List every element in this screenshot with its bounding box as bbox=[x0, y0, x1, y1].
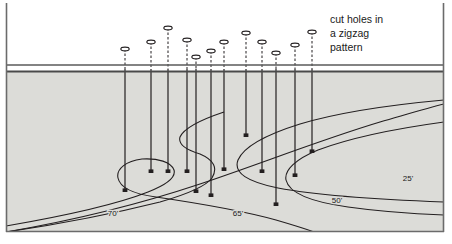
annotation-line-2: a zigzag bbox=[330, 27, 369, 39]
drill-hole-1-bottom-marker bbox=[123, 188, 128, 192]
annotation-line-1: cut holes in bbox=[330, 13, 383, 25]
contour-label-65: 65' bbox=[233, 209, 244, 218]
drill-hole-1-collar-icon bbox=[121, 47, 129, 51]
drill-hole-6-bottom-marker bbox=[209, 193, 214, 197]
diagram-canvas: 70' 65' 50' 25' cut holes in a zigzag pa… bbox=[0, 0, 452, 244]
drill-hole-3-bottom-marker bbox=[166, 169, 171, 173]
drill-hole-12-bottom-marker bbox=[310, 149, 315, 153]
drill-hole-11-collar-icon bbox=[291, 43, 299, 47]
drill-hole-2-collar-icon bbox=[147, 40, 155, 44]
drill-hole-7-bottom-marker bbox=[222, 167, 227, 171]
drill-hole-9-collar-icon bbox=[258, 40, 266, 44]
drill-hole-10-collar-icon bbox=[272, 51, 280, 55]
drill-hole-3-collar-icon bbox=[164, 26, 172, 30]
drill-hole-cross-section-figure: 70' 65' 50' 25' cut holes in a zigzag pa… bbox=[0, 0, 452, 244]
drill-hole-4-bottom-marker bbox=[185, 169, 190, 173]
contour-label-50: 50' bbox=[332, 196, 343, 205]
drill-hole-8-collar-icon bbox=[242, 31, 250, 35]
drill-hole-5-collar-icon bbox=[192, 55, 200, 59]
drill-hole-4-collar-icon bbox=[183, 38, 191, 42]
drill-hole-9-bottom-marker bbox=[260, 169, 265, 173]
drill-hole-10-bottom-marker bbox=[274, 202, 279, 206]
drill-hole-11-bottom-marker bbox=[293, 173, 298, 177]
drill-hole-12-collar-icon bbox=[308, 30, 316, 34]
contour-label-70: 70' bbox=[108, 209, 119, 218]
annotation-line-3: pattern bbox=[330, 41, 363, 53]
drill-hole-7-collar-icon bbox=[220, 40, 228, 44]
drill-hole-2-bottom-marker bbox=[149, 169, 154, 173]
drill-hole-8-bottom-marker bbox=[244, 133, 249, 137]
drill-hole-6-collar-icon bbox=[207, 49, 215, 53]
contour-label-25: 25' bbox=[403, 174, 414, 183]
drill-hole-5-bottom-marker bbox=[194, 189, 199, 193]
